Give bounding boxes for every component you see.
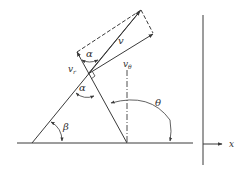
- label-x: x: [229, 139, 234, 149]
- dashed-parallelogram: [77, 10, 141, 52]
- label-vtheta: vθ: [123, 59, 132, 70]
- velocity-v: [88, 11, 140, 74]
- angle-arc-beta: [51, 122, 62, 141]
- angle-arc-alpha-mid: [76, 93, 94, 97]
- label-beta: β: [62, 121, 69, 132]
- label-v: v: [118, 35, 124, 46]
- label-theta: θ: [155, 97, 161, 108]
- label-alpha-mid: α: [79, 82, 86, 93]
- label-alpha-top: α: [86, 48, 93, 59]
- dashed-parallelogram-right: [141, 10, 153, 33]
- angle-arc-theta: [111, 100, 171, 141]
- velocity-diagram: v vr vθ α α θ β x: [0, 0, 247, 171]
- angle-arc-alpha-top: [82, 60, 98, 62]
- label-vr: vr: [68, 64, 77, 75]
